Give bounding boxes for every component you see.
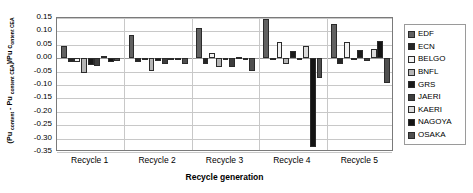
legend-label: OSAKA — [418, 131, 446, 139]
y-axis-tick-label: 0.10 — [18, 26, 52, 34]
bar — [364, 58, 370, 61]
gridline — [57, 112, 392, 113]
bar — [108, 58, 114, 62]
bar — [129, 35, 135, 59]
bar — [61, 46, 67, 58]
y-axis-tick-labels: 0.150.100.050.00-0.05-0.10-0.15-0.20-0.2… — [14, 0, 52, 193]
gridline — [57, 45, 392, 46]
legend-swatch-icon — [408, 56, 415, 63]
legend-label: EDF — [418, 30, 434, 38]
bar — [297, 58, 303, 60]
group-separator — [259, 18, 260, 150]
bar — [162, 58, 168, 63]
gridline — [57, 125, 392, 126]
gridline — [57, 31, 392, 32]
bar — [310, 58, 316, 146]
bar — [331, 24, 337, 58]
gridline — [57, 18, 392, 19]
bar — [277, 42, 283, 58]
legend-swatch-icon — [408, 106, 415, 113]
x-axis-tick-label: Recycle 4 — [273, 155, 310, 165]
y-axis-tick-label: -0.20 — [18, 107, 52, 115]
bar — [88, 58, 94, 65]
y-axis-tick-label: -0.05 — [18, 67, 52, 75]
plot-area — [56, 17, 393, 151]
legend-item: OSAKA — [408, 129, 463, 142]
bar — [243, 58, 249, 60]
y-axis-tick-label: -0.30 — [18, 134, 52, 142]
legend-swatch-icon — [408, 119, 415, 126]
legend-label: ECN — [418, 43, 435, 51]
legend-label: BELGO — [418, 55, 446, 63]
group-separator — [124, 18, 125, 150]
bar — [357, 50, 363, 59]
legend-item: GRS — [408, 78, 463, 91]
y-axis-tick-label: -0.35 — [18, 147, 52, 155]
bar — [303, 46, 309, 58]
legend: EDFECNBELGOBNFLGRSJAERIKAERINAGOYAOSAKA — [404, 24, 466, 145]
bar — [149, 58, 155, 70]
bar — [142, 58, 148, 60]
bar — [196, 28, 202, 58]
bar — [344, 42, 350, 58]
group-separator — [327, 18, 328, 150]
bar — [168, 58, 174, 60]
bar — [101, 56, 107, 59]
bar — [135, 58, 141, 62]
bar — [290, 51, 296, 59]
bar — [68, 58, 74, 62]
x-axis-title: Recycle generation — [56, 172, 393, 182]
x-axis-tick-label: Recycle 5 — [341, 155, 378, 165]
bar — [249, 58, 255, 70]
bar — [223, 58, 229, 60]
legend-item: EDF — [408, 28, 463, 41]
bar — [236, 57, 242, 59]
legend-item: JAERI — [408, 91, 463, 104]
bar — [263, 19, 269, 59]
bar-chart: (Pu content - Pu content CEA)/Pu content… — [0, 0, 473, 193]
legend-label: KAERI — [418, 106, 442, 114]
bar — [182, 58, 188, 64]
bar — [74, 58, 80, 62]
x-axis-tick-label: Recycle 3 — [206, 155, 243, 165]
legend-label: GRS — [418, 81, 435, 89]
bar — [155, 58, 161, 61]
bar — [114, 58, 120, 61]
bar — [94, 58, 100, 66]
legend-item: ECN — [408, 41, 463, 54]
y-axis-tick-label: 0.05 — [18, 40, 52, 48]
gridline — [57, 98, 392, 99]
legend-label: NAGOYA — [418, 118, 452, 126]
bar — [81, 58, 87, 73]
legend-swatch-icon — [408, 81, 415, 88]
bar — [203, 58, 209, 63]
y-axis-tick-label: -0.15 — [18, 93, 52, 101]
legend-swatch-icon — [408, 132, 415, 139]
bar — [283, 58, 289, 63]
bar — [337, 58, 343, 64]
gridline — [57, 139, 392, 140]
legend-item: BNFL — [408, 66, 463, 79]
x-axis-tick-label: Recycle 2 — [138, 155, 175, 165]
gridline — [57, 152, 392, 153]
bar — [371, 49, 377, 58]
x-axis-tick-label: Recycle 1 — [71, 155, 108, 165]
y-axis-tick-label: -0.10 — [18, 80, 52, 88]
legend-item: KAERI — [408, 104, 463, 117]
legend-swatch-icon — [408, 94, 415, 101]
bar — [317, 58, 323, 78]
legend-label: BNFL — [418, 68, 438, 76]
bar — [209, 53, 215, 58]
gridline — [57, 85, 392, 86]
legend-swatch-icon — [408, 69, 415, 76]
bar — [216, 58, 222, 67]
bar — [377, 41, 383, 58]
bar — [351, 58, 357, 60]
legend-swatch-icon — [408, 31, 415, 38]
bar — [175, 58, 181, 60]
legend-item: BELGO — [408, 53, 463, 66]
legend-label: JAERI — [418, 93, 441, 101]
legend-item: NAGOYA — [408, 116, 463, 129]
y-axis-tick-label: 0.15 — [18, 13, 52, 21]
legend-swatch-icon — [408, 43, 415, 50]
